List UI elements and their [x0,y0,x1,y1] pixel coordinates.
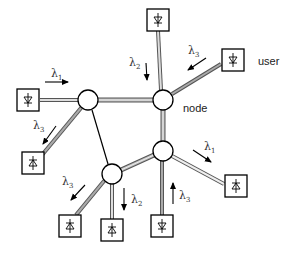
arrow-down-icon [146,63,147,80]
link-node-a-node-d [92,110,108,164]
node-d[interactable] [102,164,122,184]
wavelength-label: λ3 [188,44,199,59]
link-user-top-node-b [158,31,161,90]
user-top[interactable] [147,9,169,31]
link-node-c-node-d [121,155,154,170]
users [17,9,247,241]
node-b[interactable] [153,90,173,110]
node-c[interactable] [153,141,173,161]
wavelength-label: λ3 [62,175,73,190]
link-node-c-user-bottom-right [172,156,224,184]
user-bottom-mid[interactable] [151,215,173,237]
user-left-bottom[interactable] [22,152,44,174]
node-label: node [183,102,207,114]
wavelength-label: λ1 [204,140,215,155]
link-node-d-user-bottom-left [76,181,104,215]
user-label: user [258,55,280,67]
node-a[interactable] [78,90,98,110]
link-node-a-user-left-bottom [42,108,81,155]
arrow-down-left-icon [188,58,206,70]
link-user-right-node-b [172,64,221,94]
user-bottom-right[interactable] [225,175,247,197]
wavelength-label: λ1 [51,67,62,82]
wavelength-label: λ2 [129,56,140,71]
user-bottom[interactable] [101,219,123,241]
wavelength-labels: λ1 λ2 λ3 λ3 λ1 λ3 λ2 λ3 [33,44,215,208]
user-left[interactable] [17,89,39,111]
user-right[interactable] [222,49,244,71]
user-bottom-left[interactable] [59,215,81,237]
network-diagram: λ1 λ2 λ3 λ3 λ1 λ3 λ2 λ3 user node [0,0,294,253]
wavelength-label: λ2 [131,193,142,208]
wavelength-label: λ3 [179,189,190,204]
wavelength-label: λ3 [33,119,44,134]
